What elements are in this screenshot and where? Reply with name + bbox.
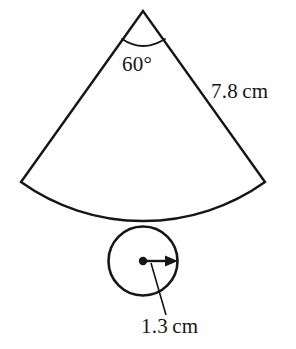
slant-length-label: 7.8 cm (211, 81, 268, 102)
cone-net-figure: 60° 7.8 cm 1.3 cm (0, 0, 296, 349)
circle-radius-label: 1.3 cm (141, 316, 198, 337)
cone-lateral-sector (21, 11, 265, 221)
apex-angle-label: 60° (122, 54, 152, 75)
apex-angle-arc (122, 39, 165, 46)
